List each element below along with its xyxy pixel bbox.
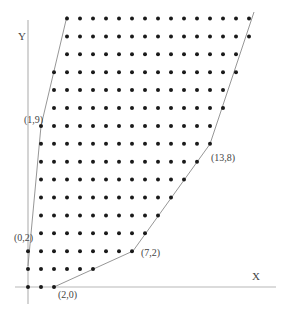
lattice-point <box>91 34 95 38</box>
lattice-point <box>195 160 199 164</box>
lattice-point <box>52 285 56 289</box>
lattice-point <box>91 124 95 128</box>
lattice-point <box>169 124 173 128</box>
lattice-point <box>221 70 225 74</box>
lattice-point <box>91 142 95 146</box>
lattice-point <box>39 178 43 182</box>
lattice-point <box>117 231 121 235</box>
lattice-point <box>52 160 56 164</box>
lattice-point <box>208 52 212 56</box>
vertex-label-13-8: (13,8) <box>211 152 235 164</box>
lattice-point <box>117 88 121 92</box>
lattice-point <box>117 106 121 110</box>
lattice-point <box>130 88 134 92</box>
lattice-point <box>104 178 108 182</box>
lattice-point <box>65 249 69 253</box>
lattice-point <box>52 88 56 92</box>
lattice-point <box>221 106 225 110</box>
lattice-point <box>130 178 134 182</box>
lattice-point <box>234 70 238 74</box>
lattice-point <box>130 213 134 217</box>
lattice-point <box>52 196 56 200</box>
lattice-point <box>195 52 199 56</box>
lattice-point <box>91 88 95 92</box>
lattice-point <box>195 88 199 92</box>
lattice-point <box>234 34 238 38</box>
lattice-point <box>117 124 121 128</box>
lattice-point <box>221 17 225 21</box>
lattice-point <box>91 17 95 21</box>
lattice-point <box>104 249 108 253</box>
lattice-point <box>143 160 147 164</box>
lattice-point <box>143 88 147 92</box>
lattice-point <box>104 17 108 21</box>
lattice-point <box>52 267 56 271</box>
lattice-point <box>130 17 134 21</box>
lattice-point <box>208 88 212 92</box>
lattice-point <box>182 160 186 164</box>
lattice-point <box>52 106 56 110</box>
lattice-point <box>78 34 82 38</box>
lattice-point <box>247 34 251 38</box>
lattice-point <box>169 142 173 146</box>
lattice-point <box>156 196 160 200</box>
lattice-point <box>130 106 134 110</box>
lattice-point <box>195 142 199 146</box>
lattice-point <box>78 17 82 21</box>
lattice-point <box>156 17 160 21</box>
lattice-point <box>78 106 82 110</box>
lattice-point <box>39 142 43 146</box>
lattice-point <box>65 34 69 38</box>
lattice-point <box>39 249 43 253</box>
lattice-point <box>143 196 147 200</box>
lattice-point <box>65 124 69 128</box>
lattice-point <box>182 178 186 182</box>
lattice-point <box>169 196 173 200</box>
lattice-point <box>78 70 82 74</box>
lattice-point <box>169 88 173 92</box>
lattice-point <box>182 52 186 56</box>
lattice-point <box>104 88 108 92</box>
lattice-point <box>156 160 160 164</box>
lattice-point <box>156 213 160 217</box>
lattice-point <box>52 124 56 128</box>
lattice-point <box>221 88 225 92</box>
lattice-point <box>117 17 121 21</box>
lattice-point <box>143 17 147 21</box>
lattice-point <box>52 231 56 235</box>
lattice-point <box>65 70 69 74</box>
lattice-point <box>91 196 95 200</box>
lattice-point <box>104 106 108 110</box>
lattice-point <box>169 160 173 164</box>
lattice-point <box>65 267 69 271</box>
lattice-point <box>52 70 56 74</box>
lattice-point <box>182 88 186 92</box>
lattice-point <box>78 213 82 217</box>
lattice-point <box>104 34 108 38</box>
lattice-point <box>78 160 82 164</box>
lattice-point <box>208 106 212 110</box>
lattice-point <box>78 178 82 182</box>
lattice-point <box>195 34 199 38</box>
lattice-point <box>247 17 251 21</box>
lattice-point <box>52 249 56 253</box>
lattice-point <box>156 70 160 74</box>
lattice-point <box>117 249 121 253</box>
lattice-point <box>78 196 82 200</box>
vertex-label-1-9: (1,9) <box>24 114 43 126</box>
lattice-point <box>182 34 186 38</box>
lattice-point <box>65 213 69 217</box>
lattice-point <box>195 17 199 21</box>
lattice-point <box>117 34 121 38</box>
lattice-point <box>117 160 121 164</box>
lattice-point <box>143 34 147 38</box>
lattice-point <box>182 106 186 110</box>
diagram-canvas: X Y (0,2) (1,9) (2,0) (7,2) (13,8) <box>0 0 286 316</box>
lattice-point <box>156 124 160 128</box>
lattice-point <box>91 231 95 235</box>
lattice-point <box>104 124 108 128</box>
lattice-point <box>65 52 69 56</box>
lattice-point <box>182 17 186 21</box>
lattice-point <box>78 88 82 92</box>
lattice-point <box>65 160 69 164</box>
